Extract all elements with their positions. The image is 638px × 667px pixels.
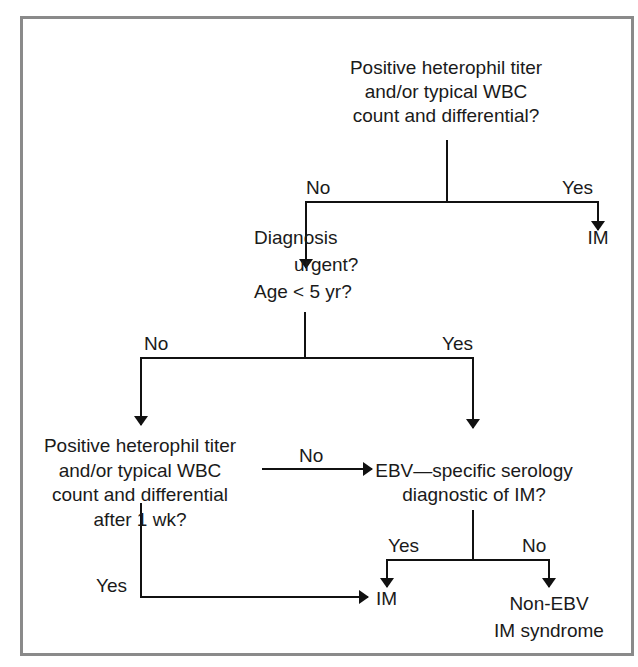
node-non-ebv-line-1: Non-EBV bbox=[494, 590, 604, 617]
node-q3-line-1: Positive heterophil titer bbox=[44, 434, 236, 459]
node-q3-line-3: count and differential bbox=[44, 483, 236, 508]
node-q2-line-1: Diagnosis bbox=[254, 226, 337, 250]
edge-label-q4-no: No bbox=[522, 534, 546, 558]
node-q3-line-4: after 1 wk? bbox=[44, 508, 236, 533]
edge-label-q4-yes: Yes bbox=[388, 534, 419, 558]
node-q3-line-2: and/or typical WBC bbox=[44, 459, 236, 484]
node-non-ebv-line-2: IM syndrome bbox=[494, 617, 604, 644]
edge-label-q1-yes: Yes bbox=[562, 176, 593, 200]
flowchart-connectors bbox=[0, 0, 638, 667]
edge-label-q1-no: No bbox=[306, 176, 330, 200]
edge-label-q3-yes: Yes bbox=[96, 574, 127, 598]
node-q1-line-2: and/or typical WBC bbox=[350, 80, 542, 104]
node-q4-ebv-serology: EBV—specific serology diagnostic of IM? bbox=[375, 459, 572, 507]
edge-label-q2-no: No bbox=[144, 332, 168, 356]
node-non-ebv-im-syndrome: Non-EBV IM syndrome bbox=[494, 590, 604, 644]
node-q4-line-2: diagnostic of IM? bbox=[375, 483, 572, 507]
node-q1-line-3: count and differential? bbox=[350, 104, 542, 128]
node-q2-line-3: Age < 5 yr? bbox=[254, 280, 352, 304]
edge-label-q3-no: No bbox=[299, 444, 323, 468]
node-q4-line-1: EBV—specific serology bbox=[375, 459, 572, 483]
node-im-bottom: IM bbox=[376, 587, 397, 611]
node-q2-line-2: urgent? bbox=[294, 253, 358, 277]
node-im-top: IM bbox=[587, 226, 608, 250]
edge-label-q2-yes: Yes bbox=[442, 332, 473, 356]
node-q1-heterophil-test: Positive heterophil titer and/or typical… bbox=[350, 56, 542, 128]
node-q3-heterophil-retest: Positive heterophil titer and/or typical… bbox=[44, 434, 236, 532]
node-q1-line-1: Positive heterophil titer bbox=[350, 56, 542, 80]
